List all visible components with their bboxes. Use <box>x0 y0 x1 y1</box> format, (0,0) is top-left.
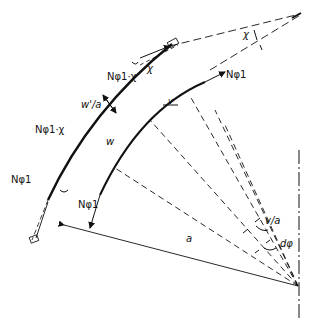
label-n-phi-left: Nφ1 <box>11 175 31 185</box>
radial-lines <box>115 96 298 286</box>
label-w: w <box>106 137 114 147</box>
radius-a-line <box>64 225 298 286</box>
tangent-lines <box>170 13 302 70</box>
label-d-phi: dφ <box>280 239 293 249</box>
label-v-over-a: v/a <box>265 216 280 226</box>
label-chi-far: χ <box>243 30 249 40</box>
label-n-phi-top-right: Nφ1 <box>226 70 246 80</box>
diagram-canvas: Nφ1·χ χ χ Nφ1 w'/a Nφ1·χ w Nφ1 Nφ1 v/a d… <box>0 0 313 327</box>
label-chi-top: χ <box>147 64 153 74</box>
label-a: a <box>186 234 192 244</box>
label-w-prime-over-a: w'/a <box>81 100 101 110</box>
label-n-phi-bottom: Nφ1 <box>78 200 98 210</box>
label-n-phi-chi-left: Nφ1·χ <box>35 125 64 135</box>
label-n-phi-chi-top: Nφ1·χ <box>107 72 136 82</box>
label-v: v <box>168 98 173 106</box>
diagram-drawing <box>0 0 313 327</box>
